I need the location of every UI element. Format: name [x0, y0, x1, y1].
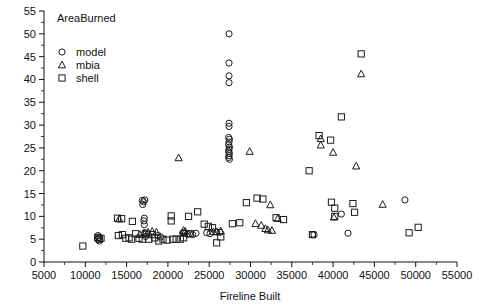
x-tick-label: 55000: [442, 269, 473, 281]
x-tick-label: 40000: [318, 269, 349, 281]
data-point-circle: [226, 80, 232, 86]
y-tick-label: 50: [24, 28, 36, 40]
data-point-triangle: [317, 141, 324, 148]
data-point-circle: [226, 60, 232, 66]
data-point-square: [201, 221, 207, 227]
data-point-triangle: [358, 70, 365, 77]
y-tick-label: 10: [24, 210, 36, 222]
data-point-triangle: [379, 201, 386, 208]
y-axis-ticks: 0510152025303540455055: [24, 5, 44, 268]
x-tick-label: 30000: [235, 269, 266, 281]
series-mbia: [116, 70, 387, 237]
data-point-square: [129, 218, 135, 224]
data-point-square: [80, 243, 86, 249]
data-point-square: [350, 200, 356, 206]
data-point-triangle: [252, 220, 259, 227]
data-point-square: [351, 209, 357, 215]
data-point-square: [415, 224, 421, 230]
y-tick-label: 5: [30, 233, 36, 245]
x-axis-ticks: 5000100001500020000250003000035000400004…: [32, 262, 473, 281]
y-tick-label: 55: [24, 5, 36, 17]
data-point-square: [214, 240, 220, 246]
data-point-triangle: [353, 162, 360, 169]
data-point-circle: [402, 197, 408, 203]
y-tick-label: 35: [24, 96, 36, 108]
y-tick-label: 30: [24, 119, 36, 131]
y-tick-label: 0: [30, 256, 36, 268]
x-tick-label: 50000: [400, 269, 431, 281]
data-point-square: [338, 114, 344, 120]
data-point-triangle: [175, 154, 182, 161]
data-point-square: [306, 168, 312, 174]
data-point-square: [260, 196, 266, 202]
data-point-square: [358, 51, 364, 57]
series-model: [95, 31, 408, 244]
data-point-circle: [226, 73, 232, 79]
x-tick-label: 20000: [153, 269, 184, 281]
data-point-triangle: [246, 148, 253, 155]
legend-label-model: model: [76, 46, 106, 58]
x-tick-label: 5000: [32, 269, 56, 281]
data-point-square: [229, 221, 235, 227]
data-points-layer: [80, 31, 422, 249]
legend-marker-mbia: [58, 61, 65, 68]
data-point-square: [328, 137, 334, 143]
data-point-square: [185, 213, 191, 219]
chart-canvas: 5000100001500020000250003000035000400004…: [0, 0, 479, 308]
data-point-circle: [338, 211, 344, 217]
data-point-circle: [141, 221, 147, 227]
scatter-plot-figure: 5000100001500020000250003000035000400004…: [0, 0, 479, 308]
y-tick-label: 40: [24, 73, 36, 85]
legend-marker-model: [59, 49, 65, 55]
x-tick-label: 35000: [277, 269, 308, 281]
y-tick-label: 25: [24, 142, 36, 154]
data-point-triangle: [330, 149, 337, 156]
data-point-circle: [345, 230, 351, 236]
x-tick-label: 25000: [194, 269, 225, 281]
y-tick-label: 45: [24, 51, 36, 63]
data-point-square: [243, 200, 249, 206]
data-point-triangle: [267, 201, 274, 208]
x-tick-label: 45000: [359, 269, 390, 281]
data-point-square: [406, 230, 412, 236]
data-point-square: [332, 205, 338, 211]
legend-marker-shell: [59, 75, 65, 81]
data-point-circle: [226, 31, 232, 37]
x-tick-label: 15000: [111, 269, 142, 281]
y-tick-label: 15: [24, 188, 36, 200]
x-tick-label: 10000: [70, 269, 101, 281]
data-point-square: [237, 220, 243, 226]
data-point-square: [195, 209, 201, 215]
legend-label-shell: shell: [76, 72, 99, 84]
legend-label-mbia: mbia: [76, 59, 101, 71]
x-axis-title: Fireline Built: [220, 290, 281, 302]
y-tick-label: 20: [24, 165, 36, 177]
data-point-square: [328, 199, 334, 205]
legend: modelmbiashell: [58, 46, 106, 84]
data-point-square: [254, 195, 260, 201]
chart-title: AreaBurned: [57, 12, 116, 24]
